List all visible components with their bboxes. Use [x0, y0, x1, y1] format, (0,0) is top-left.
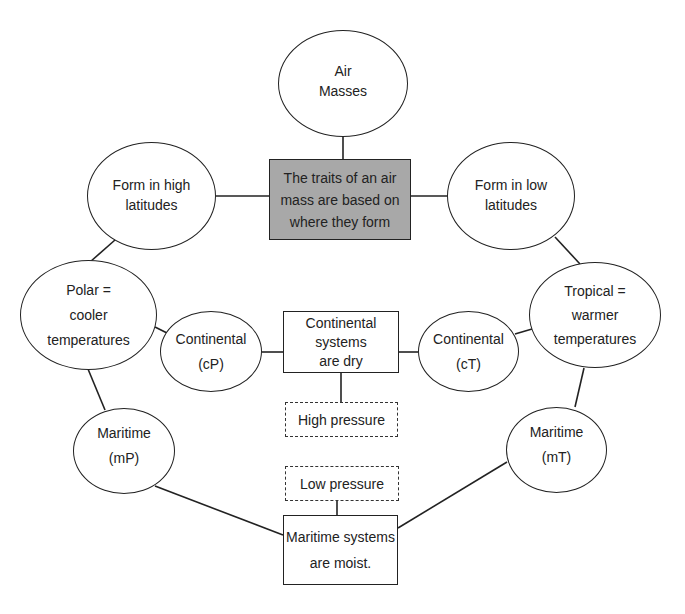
node-maritime-systems: Maritime systems are moist.	[283, 515, 398, 585]
node-tropical-line3: temperatures	[554, 327, 636, 351]
node-tropical-line1: Tropical =	[564, 279, 625, 303]
node-polar: Polar = cooler temperatures	[20, 260, 157, 370]
node-central-line1: The traits of an air	[284, 167, 397, 189]
node-tropical: Tropical = warmer temperatures	[529, 262, 661, 368]
node-mp-line2: (mP)	[109, 446, 139, 471]
connector-mp-maritimesystems	[155, 486, 283, 535]
node-low-pressure: Low pressure	[285, 466, 399, 501]
node-air-masses-line2: Masses	[319, 81, 367, 101]
node-mt-line2: (mT)	[542, 445, 572, 470]
node-cp-line2: (cP)	[198, 352, 224, 377]
node-marsys-line1: Maritime systems	[286, 524, 395, 550]
connector-lowlat-tropical	[555, 237, 580, 264]
node-high-pressure-label: High pressure	[298, 412, 385, 428]
node-ct-line2: (cT)	[456, 352, 481, 377]
node-central-line2: mass are based on	[280, 189, 399, 211]
node-cp-line1: Continental	[176, 327, 247, 352]
node-low-pressure-label: Low pressure	[300, 476, 384, 492]
node-low-lat-line2: latitudes	[485, 195, 537, 215]
node-central-traits: The traits of an air mass are based on w…	[269, 159, 411, 240]
node-air-masses-line1: Air	[334, 61, 351, 81]
node-marsys-line2: are moist.	[310, 550, 371, 576]
node-high-latitudes: Form in high latitudes	[87, 142, 216, 250]
node-low-latitudes: Form in low latitudes	[447, 142, 575, 250]
node-high-pressure: High pressure	[285, 402, 398, 437]
node-polar-line3: temperatures	[47, 328, 129, 353]
node-high-lat-line1: Form in high	[113, 175, 191, 195]
node-contsys-line2: systems	[315, 333, 366, 352]
connector-ct-tropical	[515, 329, 532, 334]
node-polar-line1: Polar =	[66, 278, 111, 303]
connector-tropical-mt	[575, 368, 584, 407]
node-central-line3: where they form	[290, 211, 390, 233]
node-polar-line2: cooler	[69, 303, 107, 328]
node-continental-cp: Continental (cP)	[160, 311, 262, 392]
node-ct-line1: Continental	[433, 327, 504, 352]
node-high-lat-line2: latitudes	[125, 195, 177, 215]
node-maritime-mp: Maritime (mP)	[73, 408, 175, 494]
node-continental-systems: Continental systems are dry	[283, 311, 399, 373]
node-mp-line1: Maritime	[97, 421, 151, 446]
node-maritime-mt: Maritime (mT)	[506, 407, 607, 493]
node-mt-line1: Maritime	[530, 420, 584, 445]
node-low-lat-line1: Form in low	[475, 175, 547, 195]
connector-polar-mp	[88, 369, 105, 410]
node-contsys-line1: Continental	[306, 314, 377, 333]
node-air-masses: Air Masses	[278, 30, 408, 137]
connector-mt-maritimesystems	[398, 462, 507, 528]
node-contsys-line3: are dry	[319, 352, 363, 371]
node-tropical-line2: warmer	[572, 303, 619, 327]
node-continental-ct: Continental (cT)	[418, 311, 519, 392]
connector-highlat-polar	[90, 240, 115, 262]
